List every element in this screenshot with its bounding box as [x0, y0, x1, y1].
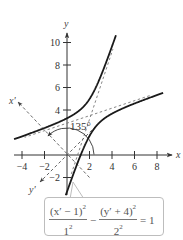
- rotation-angle-marker: 135°: [48, 120, 94, 155]
- term2-num-exp: 2: [133, 203, 137, 211]
- y-tick-label: 8: [55, 60, 60, 71]
- y-prime-label: y': [28, 184, 36, 195]
- y-tick-label: 4: [55, 105, 60, 116]
- x-tick-label: 4: [110, 161, 115, 172]
- fraction-1: (x′ − 1)2 12: [49, 201, 87, 238]
- term1-numerator: (x′ − 1): [50, 205, 82, 217]
- x-tick-label: 8: [155, 161, 160, 172]
- y-tick-label: 6: [55, 82, 60, 93]
- x-ticks: −4−22468: [17, 151, 160, 172]
- x-tick-label: 6: [132, 161, 137, 172]
- term2-den-exp: 2: [119, 223, 123, 231]
- x-tick-label: −2: [39, 161, 50, 172]
- equals-one: = 1: [137, 213, 157, 227]
- equation: (x′ − 1)2 12 − (y′ + 4)2 22 = 1: [49, 201, 158, 238]
- y-tick-label: −2: [49, 172, 60, 183]
- x-prime-label: x': [8, 95, 16, 106]
- y-axis-label: y: [63, 18, 69, 29]
- angle-label: 135°: [70, 120, 91, 132]
- y-tick-label: 10: [50, 37, 60, 48]
- term1-den-exp: 2: [69, 223, 73, 231]
- fraction-2: (y′ + 4)2 22: [99, 201, 137, 238]
- hyperbola-left-branch: [66, 93, 163, 195]
- x-axis-label: x: [175, 149, 181, 160]
- x-tick-label: −4: [17, 161, 28, 172]
- x-prime-axis: [18, 102, 90, 178]
- x-tick-label: 2: [87, 161, 92, 172]
- equation-box: (x′ − 1)2 12 − (y′ + 4)2 22 = 1: [44, 197, 164, 236]
- term1-num-exp: 2: [82, 203, 86, 211]
- term2-numerator: (y′ + 4): [100, 205, 132, 217]
- minus-sign: −: [87, 213, 99, 227]
- y-ticks: −246810: [49, 37, 71, 183]
